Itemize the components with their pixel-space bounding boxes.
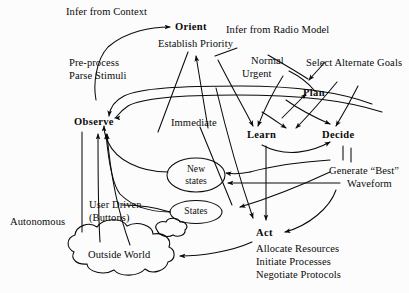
node-plan[interactable]: Plan — [303, 87, 325, 99]
node-learn[interactable]: Learn — [247, 129, 276, 141]
edge-right-to-newstates-a — [250, 160, 330, 172]
annotation-negotiate-protocols: Negotiate Protocols — [256, 269, 341, 281]
annotation-urgent: Urgent — [242, 68, 272, 80]
edge-immediate-to-act — [216, 88, 253, 218]
annotation-allocate-resources: Allocate Resources — [256, 243, 339, 255]
edge-urgent-to-learn — [258, 76, 283, 126]
annotation-select-alternate-goals: Select Alternate Goals — [306, 57, 402, 69]
annotation-pre-process: Pre-process — [69, 57, 119, 69]
ellipse-new-states-line1: New — [176, 164, 216, 174]
cloud-outside-world-label: Outside World — [88, 249, 150, 261]
node-act[interactable]: Act — [256, 227, 273, 239]
annotation-buttons: (Buttons) — [89, 212, 130, 224]
annotation-normal: Normal — [251, 55, 284, 67]
node-decide[interactable]: Decide — [322, 129, 354, 141]
annotation-infer-from-context: Infer from Context — [66, 6, 147, 18]
annotation-establish-priority: Establish Priority — [158, 38, 233, 50]
diagram-canvas: Orient Plan Learn Decide Observe Act New… — [0, 0, 409, 293]
edge-decide-to-act — [285, 190, 336, 232]
edge-to-states-arrow — [240, 172, 330, 207]
node-orient[interactable]: Orient — [175, 21, 207, 33]
edge-short-to-learn — [262, 112, 286, 128]
annotation-autonomous: Autonomous — [10, 216, 65, 228]
edge-newstates-to-observe — [104, 126, 168, 172]
edge-plan-to-decide-b — [336, 86, 358, 126]
annotation-user-driven: User Driven — [89, 199, 142, 211]
annotation-waveform: Waveform — [347, 178, 392, 190]
edge-feedback-rail-bottom — [115, 95, 382, 118]
edge-act-to-outside-world — [180, 242, 252, 256]
ellipse-states: States — [176, 206, 216, 216]
edge-outside-to-observe-b — [107, 134, 130, 245]
annotation-generate-best: Generate “Best” — [329, 165, 399, 177]
ellipse-new-states-line2: states — [176, 176, 216, 186]
edge-learn-decide-lower — [262, 142, 330, 152]
annotation-parse-stimuli: Parse Stimuli — [69, 70, 127, 82]
annotation-immediate: Immediate — [171, 117, 217, 129]
annotation-initiate-processes: Initiate Processes — [256, 256, 331, 268]
edge-learn-to-decide — [286, 100, 330, 124]
outside-world-cloud — [68, 218, 187, 275]
node-observe[interactable]: Observe — [74, 116, 114, 128]
annotation-infer-from-radio-model: Infer from Radio Model — [226, 24, 329, 36]
